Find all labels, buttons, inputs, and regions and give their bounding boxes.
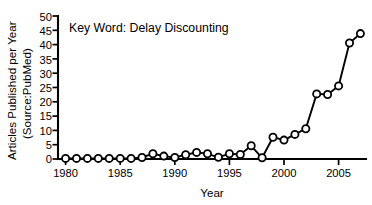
data-point xyxy=(357,30,364,37)
y-tick-label: 40 xyxy=(40,39,52,51)
y-axis-title-line2: (Source:PubMed) xyxy=(20,48,33,139)
data-point xyxy=(117,155,124,162)
data-point xyxy=(237,151,244,158)
data-point xyxy=(149,150,156,157)
y-tick-label: 45 xyxy=(40,25,52,37)
x-tick-labels: 1980 1985 1990 1995 2000 2005 xyxy=(53,167,351,179)
data-point xyxy=(160,153,167,160)
data-point xyxy=(193,149,200,156)
data-point xyxy=(215,154,222,161)
data-point xyxy=(226,150,233,157)
data-point xyxy=(280,137,287,144)
chart-figure: Articles Published per Year (Source:PubM… xyxy=(0,0,372,205)
data-point xyxy=(259,154,266,161)
y-axis-title: Articles Published per Year (Source:PubM… xyxy=(5,21,33,160)
data-point xyxy=(171,154,178,161)
data-point xyxy=(302,125,309,132)
y-tick-labels: 50 45 40 35 30 25 20 15 10 5 0 xyxy=(40,11,52,165)
y-tick-label: 10 xyxy=(40,125,52,137)
data-point xyxy=(62,155,69,162)
y-tick-label: 20 xyxy=(40,96,52,108)
data-point xyxy=(106,155,113,162)
y-tick-label: 35 xyxy=(40,54,52,66)
series-markers xyxy=(62,30,364,162)
chart-svg: Articles Published per Year (Source:PubM… xyxy=(0,0,372,205)
y-tick-label: 15 xyxy=(40,110,52,122)
data-point xyxy=(95,155,102,162)
data-point xyxy=(324,91,331,98)
y-axis-title-line1: Articles Published per Year xyxy=(5,21,18,160)
y-tick-label: 5 xyxy=(46,139,52,151)
data-point xyxy=(313,90,320,97)
chart-annotation: Key Word: Delay Discounting xyxy=(69,21,229,35)
x-tick-label: 1995 xyxy=(217,167,242,179)
data-point xyxy=(291,131,298,138)
x-tick-label: 1980 xyxy=(53,167,78,179)
x-tick-label: 2000 xyxy=(272,167,297,179)
data-point xyxy=(346,39,353,46)
data-point xyxy=(248,142,255,149)
x-tick-label: 1985 xyxy=(108,167,133,179)
data-point xyxy=(128,155,135,162)
data-point xyxy=(138,154,145,161)
x-tick-label: 1990 xyxy=(162,167,187,179)
x-axis-title: Year xyxy=(200,186,224,199)
data-point xyxy=(335,82,342,89)
x-tick-label: 2005 xyxy=(326,167,351,179)
data-point xyxy=(73,155,80,162)
y-tick-label: 50 xyxy=(40,11,52,23)
data-point xyxy=(204,150,211,157)
data-point xyxy=(182,151,189,158)
data-point xyxy=(84,155,91,162)
y-tick-label: 0 xyxy=(46,153,52,165)
data-point xyxy=(269,134,276,141)
y-tick-label: 30 xyxy=(40,68,52,80)
y-tick-label: 25 xyxy=(40,82,52,94)
